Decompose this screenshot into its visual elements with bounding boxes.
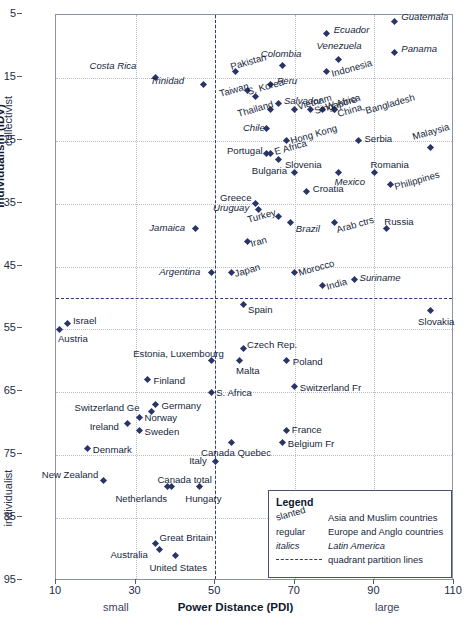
data-point[interactable]: [391, 49, 398, 56]
x-axis-tick: 50: [189, 584, 239, 596]
data-point[interactable]: [323, 30, 330, 37]
data-point[interactable]: [275, 99, 282, 106]
data-point[interactable]: [152, 401, 159, 408]
point-label: Uruguay: [213, 203, 249, 213]
point-label: Taiwan: [218, 82, 249, 99]
y-axis-tick: 55: [0, 321, 16, 333]
x-axis-tick: 10: [30, 584, 80, 596]
point-label: Morocco: [297, 258, 335, 277]
point-label: Netherlands: [115, 494, 167, 504]
point-label: Czech Rep.: [247, 340, 297, 350]
data-point[interactable]: [156, 546, 163, 553]
data-point[interactable]: [323, 68, 330, 75]
legend-value: Latin America: [328, 540, 444, 551]
data-point[interactable]: [391, 18, 398, 25]
legend-value: quadrant partition lines: [328, 554, 444, 565]
data-point[interactable]: [279, 439, 286, 446]
point-label: Guatemala: [401, 12, 448, 22]
legend-quadrant-line-icon: [276, 559, 322, 560]
point-label: Costa Rica: [90, 61, 137, 71]
data-point[interactable]: [335, 169, 342, 176]
data-point[interactable]: [351, 276, 358, 283]
data-point[interactable]: [291, 382, 298, 389]
gridline-horizontal: [56, 78, 452, 79]
data-point[interactable]: [291, 169, 298, 176]
data-point[interactable]: [283, 357, 290, 364]
data-point[interactable]: [192, 225, 199, 232]
data-point[interactable]: [240, 345, 247, 352]
data-point[interactable]: [208, 389, 215, 396]
legend-value: Asia and Muslim countries: [328, 512, 444, 523]
point-label: France: [292, 425, 322, 435]
point-label: Arab ctrs: [335, 214, 375, 234]
point-label: Argentina: [159, 267, 200, 277]
data-point[interactable]: [355, 137, 362, 144]
point-label: Norway: [145, 413, 178, 423]
data-point[interactable]: [172, 552, 179, 559]
point-label: New Zealand: [42, 470, 99, 480]
point-label: Panama: [401, 44, 437, 54]
point-label: Bangladesh: [364, 93, 415, 116]
point-label: Colombia: [261, 49, 302, 59]
scatter-chart: Costa RicaTrinidadGuatemalaPanamaEcuador…: [0, 0, 471, 631]
point-label: Switzerland Fr: [300, 383, 361, 393]
data-point[interactable]: [287, 219, 294, 226]
point-label: Chile: [243, 123, 265, 133]
point-label: Canada Quebec: [201, 448, 271, 458]
point-label: Sweden: [145, 427, 180, 437]
point-label: Thailand: [236, 100, 274, 119]
gridline-horizontal: [56, 329, 452, 330]
point-label: Croatia: [313, 184, 344, 194]
data-point[interactable]: [275, 156, 282, 163]
x-axis-tick: 110: [428, 584, 471, 596]
data-point[interactable]: [303, 188, 310, 195]
y-axis-tick: 25: [0, 133, 16, 145]
data-point[interactable]: [236, 357, 243, 364]
data-point[interactable]: [427, 307, 434, 314]
x-axis-note-large: large: [375, 601, 399, 613]
point-label: Estonia, Luxembourg: [133, 349, 224, 359]
point-label: Philippines: [394, 169, 441, 191]
point-label: Russia: [384, 217, 413, 227]
point-label: Slovakia: [418, 317, 454, 327]
data-point[interactable]: [84, 445, 91, 452]
legend-row: regularEurope and Anglo countries: [276, 526, 444, 537]
point-label: United States: [149, 563, 207, 573]
data-point[interactable]: [100, 477, 107, 484]
data-point[interactable]: [283, 427, 290, 434]
data-point[interactable]: [240, 301, 247, 308]
data-point[interactable]: [212, 458, 219, 465]
legend-row: italicsLatin America: [276, 540, 444, 551]
data-point[interactable]: [200, 81, 207, 88]
data-point[interactable]: [279, 62, 286, 69]
point-label: Romania: [370, 160, 408, 170]
point-label: Italy: [189, 456, 207, 466]
data-point[interactable]: [136, 427, 143, 434]
legend-key: regular: [276, 526, 328, 537]
data-point[interactable]: [208, 269, 215, 276]
data-point[interactable]: [228, 439, 235, 446]
data-point[interactable]: [335, 55, 342, 62]
y-axis-tick: 35: [0, 196, 16, 208]
x-axis-tick: 30: [110, 584, 160, 596]
data-point[interactable]: [144, 376, 151, 383]
y-axis-tick: 75: [0, 447, 16, 459]
data-point[interactable]: [64, 320, 71, 327]
legend-value: Europe and Anglo countries: [328, 526, 444, 537]
point-label: Hungary: [185, 494, 221, 504]
data-point[interactable]: [56, 326, 63, 333]
point-label: Ireland: [90, 422, 119, 432]
point-label: Australia: [110, 550, 147, 560]
point-label: Canada total: [157, 475, 211, 485]
data-point[interactable]: [136, 414, 143, 421]
y-axis-tick: 85: [0, 510, 16, 522]
legend-row: quadrant partition lines: [276, 554, 444, 565]
data-point[interactable]: [124, 420, 131, 427]
point-label: Israel: [73, 316, 96, 326]
x-axis-title: Power Distance (PDI): [0, 601, 471, 613]
legend: Legend slantedAsia and Muslim countriesr…: [268, 490, 452, 578]
point-label: Ecuador: [334, 25, 370, 35]
quadrant-line-horizontal: [56, 298, 452, 299]
data-point[interactable]: [427, 144, 434, 151]
point-label: S. Africa: [216, 388, 252, 398]
